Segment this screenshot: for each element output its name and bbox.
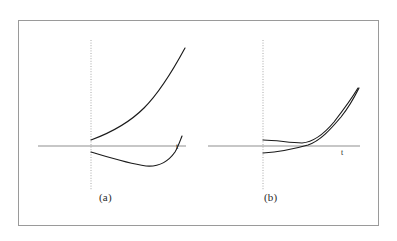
panel-a-caption: (a) xyxy=(99,191,112,203)
figure-root: t t (a) (b) xyxy=(0,0,397,241)
figure-border xyxy=(18,20,379,226)
panel-a-x-axis-label: t xyxy=(176,142,178,151)
panel-b-x-axis-label: t xyxy=(341,148,343,157)
panel-b-caption: (b) xyxy=(264,191,277,203)
